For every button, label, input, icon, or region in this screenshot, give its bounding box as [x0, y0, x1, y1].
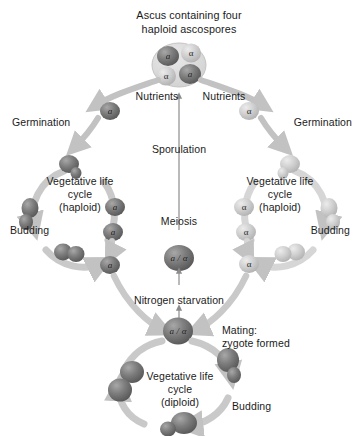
left-exit-arrow [110, 241, 112, 256]
celltext-left-exit-a: a [108, 260, 113, 270]
celltext-right-exit-alpha: α [247, 259, 252, 269]
yeast-life-cycle-figure: Ascus containing four haploid ascospores… [0, 0, 358, 436]
label-budding-left: Budding [10, 224, 49, 237]
label-mating-line1: Mating: [222, 324, 257, 337]
caption-haploid-left-line2: cycle [68, 188, 92, 201]
right-exit-arrow [247, 241, 249, 256]
caption-diploid-line2: cycle [168, 383, 192, 396]
celltext-left-a-upper: a [113, 202, 118, 212]
celltext-right-alpha-lower: α [244, 227, 249, 237]
celltext-diploid-zygote: a / α [169, 326, 186, 336]
celltext-ascospore-a-top: a [166, 51, 171, 61]
label-meiosis: Meiosis [161, 215, 197, 228]
label-mating-line2: zygote formed [222, 337, 290, 350]
celltext-germinating-alpha: α [247, 106, 252, 116]
celltext-diploid-meiosis: a / α [170, 253, 187, 263]
label-nutrients-right: Nutrients [203, 90, 246, 103]
celltext-ascospore-alpha-bottom: α [164, 71, 169, 81]
germination-left-arrow [74, 118, 98, 148]
celltext-ascospore-a-bottom: a [188, 69, 193, 79]
celltext-ascospore-alpha-top: α [189, 48, 194, 58]
label-nitrogen-starvation: Nitrogen starvation [134, 294, 224, 307]
figure-title-line2: haploid ascospores [142, 23, 237, 37]
caption-haploid-right-line1: Vegetative life [247, 175, 314, 188]
caption-haploid-right-line2: cycle [268, 188, 292, 201]
celltext-right-alpha-upper: α [242, 202, 247, 212]
caption-haploid-left-line3: (haploid) [59, 201, 101, 214]
celltext-germinating-a: a [108, 106, 113, 116]
label-budding-right: Budding [311, 224, 350, 237]
label-nutrients-left: Nutrients [136, 90, 179, 103]
caption-diploid-line3: (diploid) [161, 396, 199, 409]
figure-title-line1: Ascus containing four [136, 9, 241, 23]
label-sporulation: Sporulation [152, 143, 206, 156]
caption-haploid-left-line1: Vegetative life [47, 175, 114, 188]
label-budding-bottom: Budding [232, 400, 271, 413]
germination-right-arrow [261, 118, 285, 148]
caption-diploid-line1: Vegetative life [147, 370, 214, 383]
label-germination-left: Germination [12, 116, 70, 129]
caption-haploid-right-line3: (haploid) [259, 201, 301, 214]
label-germination-right: Germination [294, 116, 352, 129]
celltext-left-a-lower: a [111, 227, 116, 237]
